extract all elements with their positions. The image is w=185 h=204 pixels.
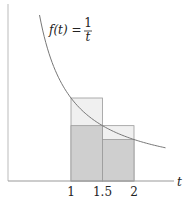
x-axis-label: t (177, 175, 182, 189)
function-label: f(t) = 1 t (48, 16, 92, 44)
riemann-sum-chart: f(t) = 1 t t 11.52 (0, 0, 185, 204)
riemann-rectangles (71, 98, 134, 181)
function-lhs: f(t) = (48, 23, 82, 37)
rect-lower-left (71, 126, 103, 181)
function-denominator: t (86, 30, 91, 44)
x-tick-label: 1 (67, 185, 75, 199)
x-tick-label: 1.5 (93, 185, 112, 199)
x-tick-labels: 11.52 (67, 185, 138, 199)
function-numerator: 1 (84, 16, 92, 30)
rect-lower-right (103, 140, 135, 182)
x-tick-label: 2 (130, 185, 138, 199)
